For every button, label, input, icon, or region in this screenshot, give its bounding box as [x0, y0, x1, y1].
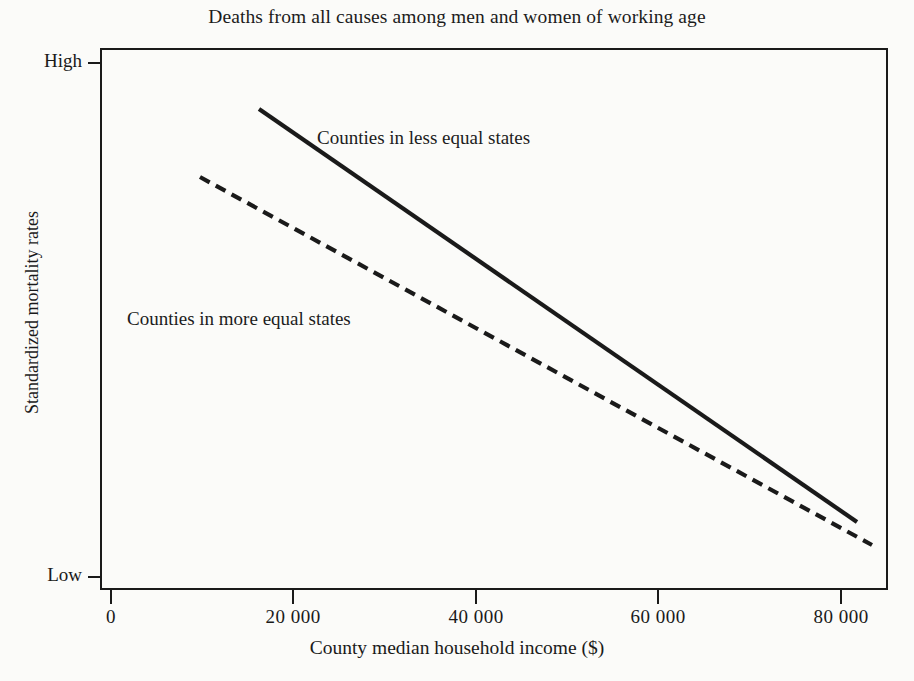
plot-series-layer: [0, 0, 914, 681]
y-tick-mark-low: [88, 576, 101, 578]
x-tick-label-80000: 80 000: [813, 606, 868, 628]
x-tick-mark-80000: [840, 590, 842, 604]
x-tick-mark-40000: [475, 590, 477, 604]
series-line-more-equal: [200, 177, 872, 545]
chart-page: Deaths from all causes among men and wom…: [0, 0, 914, 681]
y-tick-label-low: Low: [8, 564, 82, 586]
x-tick-label-60000: 60 000: [630, 606, 685, 628]
series-annotation-more-equal: Counties in more equal states: [127, 308, 351, 330]
y-axis-label: Standardized mortality rates: [22, 113, 43, 513]
y-tick-mark-high: [88, 62, 101, 64]
x-tick-label-40000: 40 000: [448, 606, 503, 628]
x-axis-label: County median household income ($): [0, 637, 914, 659]
y-tick-label-high: High: [8, 50, 82, 72]
x-tick-label-0: 0: [106, 606, 116, 628]
x-tick-mark-60000: [657, 590, 659, 604]
x-tick-mark-0: [110, 590, 112, 604]
x-tick-mark-20000: [292, 590, 294, 604]
series-annotation-less-equal: Counties in less equal states: [317, 127, 530, 149]
x-tick-label-20000: 20 000: [265, 606, 320, 628]
